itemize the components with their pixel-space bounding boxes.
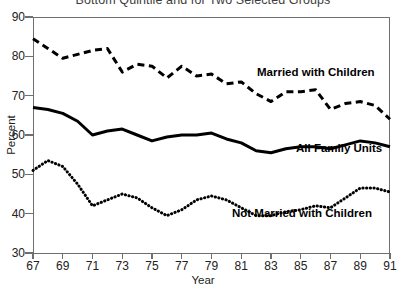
series-line-0 [33, 39, 390, 120]
series-label-married-with-children: Married with Children [257, 66, 375, 78]
x-tick-label: 87 [318, 260, 344, 272]
x-tick-label: 89 [347, 260, 373, 272]
chart-container: Bottom Quintile and for Two Selected Gro… [0, 0, 406, 288]
x-tick-label: 79 [199, 260, 225, 272]
x-tick-label: 91 [377, 260, 403, 272]
x-tick-label: 77 [169, 260, 195, 272]
x-tick-label: 69 [50, 260, 76, 272]
x-tick-label: 73 [109, 260, 135, 272]
x-tick-label: 67 [20, 260, 46, 272]
x-tick-label: 71 [80, 260, 106, 272]
series-label-all-family-units: All Family Units [296, 142, 382, 154]
x-tick-label: 75 [139, 260, 165, 272]
x-tick-label: 81 [228, 260, 254, 272]
series-label-not-married-with-children: Not Married with Children [232, 207, 372, 219]
x-tick-label: 85 [288, 260, 314, 272]
x-tick-label: 83 [258, 260, 284, 272]
